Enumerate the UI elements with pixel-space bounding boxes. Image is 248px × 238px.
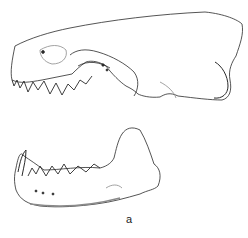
skull-illustration: a [0, 0, 248, 238]
cranium-lateral-view [11, 12, 242, 100]
panel-label: a [126, 213, 132, 225]
skull-drawing [0, 0, 248, 238]
mandible-lateral-view [15, 128, 161, 207]
